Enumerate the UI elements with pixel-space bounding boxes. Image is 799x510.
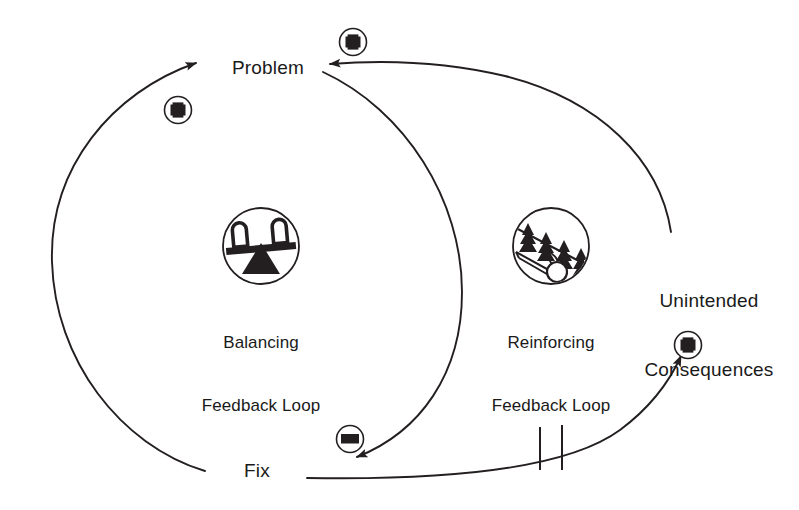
node-label-unintended-line2: Consequences (624, 358, 794, 381)
node-label-unintended-consequences: Unintended Consequences (624, 243, 794, 427)
node-label-fix: Fix (217, 459, 297, 482)
loop-caption-balancing-line1: Balancing (181, 332, 341, 353)
loop-caption-balancing-line2: Feedback Loop (181, 395, 341, 416)
loop-caption-reinforcing-line2: Feedback Loop (471, 395, 631, 416)
node-label-unintended-line1: Unintended (624, 289, 794, 312)
loop-caption-reinforcing: Reinforcing Feedback Loop (471, 290, 631, 458)
snowball-hill-icon (512, 208, 600, 284)
loop-caption-reinforcing-line1: Reinforcing (471, 332, 631, 353)
link-problem-to-fix (323, 72, 462, 457)
seesaw-balance-icon (223, 208, 299, 284)
polarity-plus-problem-inflow (340, 29, 367, 56)
node-label-problem: Problem (218, 56, 318, 79)
diagram-canvas: Problem Fix Unintended Consequences Bala… (0, 0, 799, 510)
loop-caption-balancing: Balancing Feedback Loop (181, 290, 341, 458)
polarity-plus-fix-to-problem (165, 97, 192, 124)
link-unintended-to-problem (330, 62, 671, 232)
